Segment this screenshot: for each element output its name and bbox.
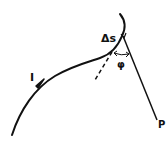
segment-label: Δs	[101, 32, 117, 45]
line-to-point	[123, 36, 157, 120]
diagram-canvas: I Δs φ P	[0, 0, 167, 146]
angle-arc	[114, 53, 129, 55]
current-label: I	[30, 71, 34, 84]
point-label: P	[158, 119, 165, 130]
angle-label: φ	[117, 59, 125, 70]
